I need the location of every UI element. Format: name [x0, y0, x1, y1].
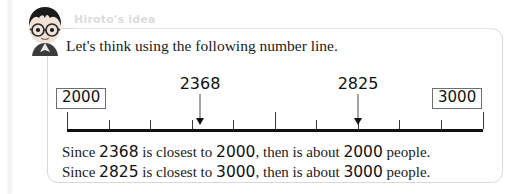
axis-tick-minor — [109, 120, 110, 129]
conclusion-unit: people. — [387, 164, 431, 180]
axis-tick-minor — [233, 120, 234, 129]
pointer-arrowhead-icon — [196, 118, 204, 125]
conclusion-tail: , then is about — [255, 144, 339, 160]
conclusion-target: 3000 — [216, 163, 255, 181]
number-line-pointer-2825: 2825 — [325, 74, 391, 126]
axis-tick-minor — [316, 120, 317, 129]
conclusion-tail: , then is about — [255, 164, 339, 180]
axis-tick-minor — [441, 120, 442, 129]
conclusion-mid: is closest to — [142, 164, 212, 180]
conclusion-lead: Since — [62, 164, 95, 180]
conclusion-list: Since 2368 is closest to 2000, then is a… — [62, 142, 492, 182]
conclusion-unit: people. — [387, 144, 431, 160]
number-line-axis — [67, 129, 483, 132]
conclusion-value: 2825 — [99, 163, 138, 181]
number-line-start-label: 2000 — [56, 88, 106, 109]
speaker-label-rule — [74, 28, 494, 29]
conclusion-result: 3000 — [343, 163, 382, 181]
number-line-end-label: 3000 — [432, 88, 482, 109]
prompt-text: Let's think using the following number l… — [66, 37, 338, 55]
pointer-value-label: 2368 — [180, 74, 221, 93]
left-edge-strip — [6, 0, 13, 194]
conclusion-line: Since 2368 is closest to 2000, then is a… — [62, 142, 492, 162]
pointer-value-label: 2825 — [338, 74, 379, 93]
conclusion-lead: Since — [62, 144, 95, 160]
conclusion-value: 2368 — [99, 143, 138, 161]
conclusion-target: 2000 — [216, 143, 255, 161]
pointer-shaft — [358, 94, 359, 120]
speaker-label: Hiroto's idea — [74, 13, 156, 26]
conclusion-result: 2000 — [343, 143, 382, 161]
pointer-shaft — [200, 94, 201, 120]
axis-tick-minor — [399, 120, 400, 129]
number-line-pointer-2368: 2368 — [167, 74, 233, 126]
axis-tick-minor — [150, 120, 151, 129]
conclusion-mid: is closest to — [142, 144, 212, 160]
pointer-arrowhead-icon — [354, 118, 362, 125]
axis-tick-major — [275, 112, 276, 129]
number-line: 2000 3000 2368 2825 — [47, 60, 503, 138]
axis-tick-major — [67, 112, 68, 129]
axis-tick-major — [483, 112, 484, 129]
conclusion-line: Since 2825 is closest to 3000, then is a… — [62, 162, 492, 182]
